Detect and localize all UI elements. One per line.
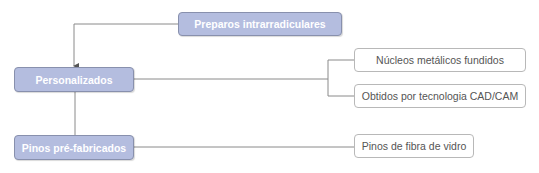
root-node-label: Preparos intrarradiculares	[194, 18, 325, 30]
root-to-personalizados-arrow	[74, 24, 178, 66]
leaf-label: Obtidos por tecnologia CAD/CAM	[362, 90, 518, 102]
category-node-pinos-pre-fabricados: Pinos pré-fabricados	[14, 135, 134, 160]
leaf-label: Núcleos metálicos fundidos	[376, 54, 504, 66]
category-node-personalizados: Personalizados	[14, 67, 134, 92]
root-node: Preparos intrarradiculares	[178, 12, 342, 36]
leaf-node-cad-cam: Obtidos por tecnologia CAD/CAM	[354, 84, 526, 108]
category-label: Personalizados	[35, 74, 112, 86]
category-label: Pinos pré-fabricados	[22, 142, 126, 154]
leaf-node-pinos-fibra-vidro: Pinos de fibra de vidro	[354, 134, 474, 158]
leaf-node-nucleos-metalicos: Núcleos metálicos fundidos	[354, 48, 526, 72]
leaf-label: Pinos de fibra de vidro	[362, 140, 466, 152]
